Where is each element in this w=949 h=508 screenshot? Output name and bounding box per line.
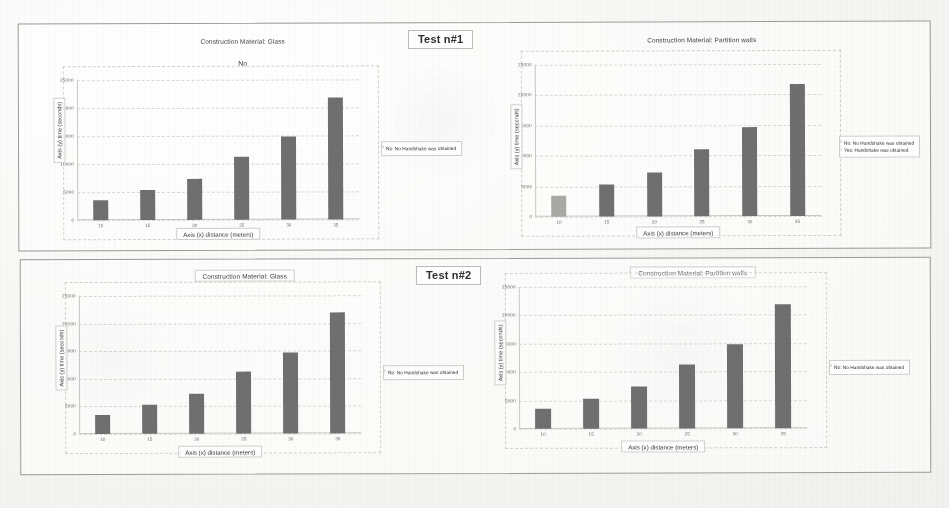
y-axis-tick-label: 0 <box>529 214 532 219</box>
bar <box>727 344 743 428</box>
bar <box>679 365 695 429</box>
bar <box>140 190 155 220</box>
legend-label-box: No: No Handshake was obtainedYes: Handsh… <box>839 136 920 159</box>
y-axis-title: Axis (y) time (seconds) <box>53 98 65 163</box>
x-axis-tick-label: 35 <box>335 436 340 441</box>
legend-entry-label: No: No Handshake was obtained <box>388 369 458 377</box>
y-axis-tick-label: 25000 <box>62 294 76 299</box>
y-axis-title: Axis (y) time (seconds) <box>55 326 67 391</box>
bar <box>789 84 805 216</box>
y-gridline <box>79 378 361 380</box>
y-gridline <box>535 94 821 96</box>
y-axis-line <box>77 80 78 220</box>
y-gridline <box>535 186 821 188</box>
chart-legend: NoYesNo: No Handshake was obtainedYes: H… <box>839 136 851 152</box>
x-axis-tick-label: 25 <box>700 219 705 224</box>
chart-legend: NoNo: No Handshake was obtained <box>383 365 393 373</box>
bar <box>775 304 791 428</box>
scanned-figure-page: Construction Material: GlassNo0500010000… <box>0 0 949 508</box>
y-axis-line <box>535 65 536 217</box>
x-axis-tick-label: 25 <box>241 437 246 442</box>
y-axis-title: Axis (y) time (seconds) <box>494 320 506 385</box>
y-gridline <box>79 350 361 352</box>
legend-entry-label: Yes: Handshake was obtained <box>844 147 914 155</box>
x-axis-tick-label: 10 <box>541 432 546 437</box>
y-axis-tick-label: 5000 <box>505 398 516 403</box>
chart-title: Construction Material: Glass <box>35 269 455 282</box>
y-axis-tick-label: 0 <box>513 426 516 431</box>
x-axis-title: Axis (x) distance (meters) <box>178 446 262 458</box>
figure-panel-test-2: Construction Material: Glass050001000015… <box>20 257 932 475</box>
chart-test2-partition-walls: Construction Material: Partition walls05… <box>473 264 914 467</box>
y-gridline <box>77 79 359 81</box>
x-axis-tick-label: 20 <box>194 437 199 442</box>
x-axis-tick-label: 15 <box>145 223 150 228</box>
y-gridline <box>535 125 821 127</box>
plot-area: 0500010000150002000025000101520253035 <box>535 64 821 217</box>
bar <box>234 156 249 219</box>
y-gridline <box>519 400 807 402</box>
y-gridline <box>77 191 359 193</box>
x-axis-tick-label: 15 <box>604 220 609 225</box>
plot-area: 0500010000150002000025000101520253035 <box>79 295 361 434</box>
bar <box>551 195 566 216</box>
bar <box>281 136 296 219</box>
legend-entry-label: No: No Handshake was obtained <box>386 145 456 153</box>
bar <box>142 405 157 434</box>
bar <box>631 387 646 429</box>
bar <box>283 352 298 433</box>
y-gridline <box>519 315 807 317</box>
y-gridline <box>77 135 359 137</box>
bar <box>535 409 550 429</box>
y-gridline <box>77 107 359 109</box>
legend-label-box: No: No Handshake was obtained <box>829 360 910 375</box>
chart-title: Construction Material: Glass <box>33 37 453 45</box>
y-gridline <box>519 371 807 373</box>
x-axis-tick-label: 20 <box>637 432 642 437</box>
figure-panel-test-1: Construction Material: GlassNo0500010000… <box>18 21 932 252</box>
y-axis-tick-label: 0 <box>73 432 76 437</box>
chart-legend: NoNo: No Handshake was obtained <box>829 360 839 368</box>
chart-title-text: Construction Material: Glass <box>195 269 295 281</box>
y-axis-tick-label: 0 <box>71 218 74 223</box>
y-axis-tick-label: 5000 <box>521 184 532 189</box>
x-axis-tick-label: 30 <box>286 223 291 228</box>
y-gridline <box>79 295 361 297</box>
bar <box>330 312 345 433</box>
x-axis-tick-label: 15 <box>589 432 594 437</box>
bar <box>694 149 709 216</box>
y-axis-title: Axis (y) time (seconds) <box>510 104 522 169</box>
x-axis-tick-label: 35 <box>333 222 338 227</box>
chart-test1-glass: Construction Material: GlassNo0500010000… <box>33 31 454 246</box>
bar <box>647 172 662 216</box>
x-axis-tick-label: 25 <box>685 431 690 436</box>
x-axis-tick-label: 35 <box>795 219 800 224</box>
y-axis-tick-label: 20000 <box>518 93 532 98</box>
y-gridline <box>519 343 807 345</box>
y-axis-tick-label: 20000 <box>502 313 516 318</box>
y-gridline <box>77 163 359 165</box>
x-axis-tick-label: 30 <box>747 219 752 224</box>
bar <box>187 178 202 219</box>
y-axis-line <box>519 287 520 429</box>
y-gridline <box>79 406 361 408</box>
y-axis-tick-label: 25000 <box>518 62 532 67</box>
test-label-1: Test n#1 <box>408 30 473 49</box>
bar <box>95 415 110 434</box>
bar <box>236 372 251 434</box>
bar <box>742 127 758 216</box>
plot-area: 0500010000150002000025000101520253035 <box>77 79 359 220</box>
chart-title: Construction Material: Partition walls <box>487 36 917 44</box>
bar <box>189 393 204 433</box>
y-axis-tick-label: 5000 <box>63 190 74 195</box>
legend-entry-label: No: No Handshake was obtained <box>834 363 904 371</box>
x-axis-tick-label: 20 <box>652 219 657 224</box>
bar <box>583 399 598 429</box>
x-axis-tick-label: 30 <box>288 436 293 441</box>
bar <box>599 184 614 216</box>
bar <box>328 97 343 219</box>
plot-area: 0500010000150002000025000101520253035 <box>519 286 807 429</box>
y-axis-tick-label: 5000 <box>65 404 76 409</box>
chart-test2-glass: Construction Material: Glass050001000015… <box>35 265 456 468</box>
x-axis-title: Axis (x) distance (meters) <box>176 228 260 240</box>
